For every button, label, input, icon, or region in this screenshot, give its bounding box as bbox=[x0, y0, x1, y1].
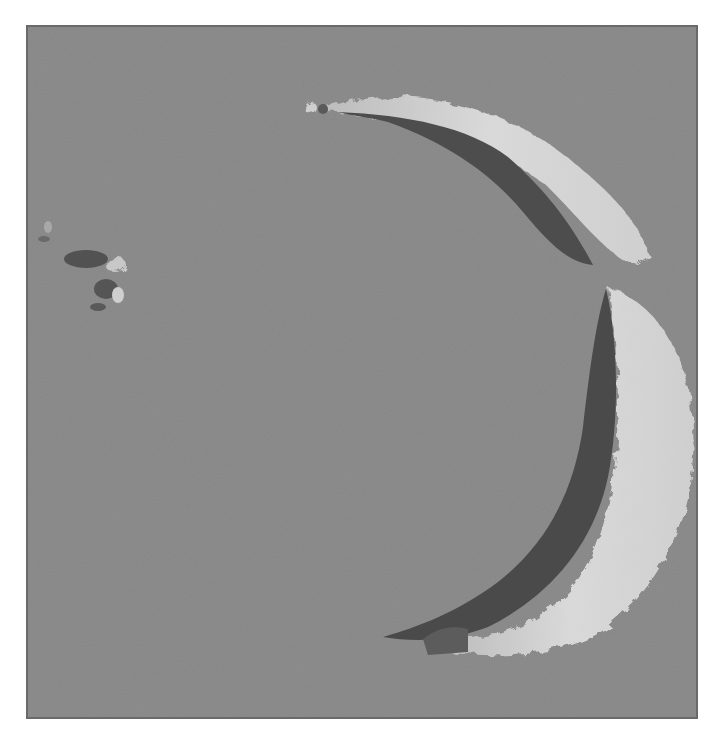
relief-image bbox=[28, 27, 696, 717]
relief-image-frame bbox=[26, 25, 698, 719]
